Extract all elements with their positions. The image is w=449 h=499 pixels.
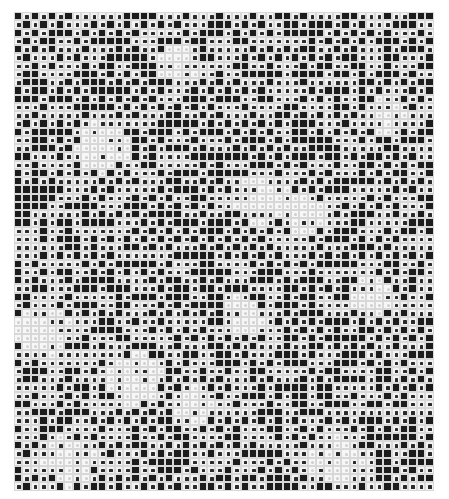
grid-cell: [316, 177, 324, 185]
grid-cell: [31, 243, 39, 251]
grid-cell: [123, 53, 131, 61]
grid-cell: [324, 449, 332, 457]
grid-cell: [14, 276, 22, 284]
grid-cell: [224, 284, 232, 292]
grid-cell: [257, 466, 265, 474]
grid-cell: [417, 177, 425, 185]
grid-cell: [81, 466, 89, 474]
grid-cell: [291, 449, 299, 457]
grid-cell: [39, 375, 47, 383]
grid-cell: [341, 474, 349, 482]
grid-cell: [148, 152, 156, 160]
grid-cell: [383, 433, 391, 441]
grid-cell: [249, 383, 257, 391]
grid-cell: [64, 70, 72, 78]
grid-cell: [123, 152, 131, 160]
grid-cell: [39, 177, 47, 185]
grid-cell: [22, 128, 30, 136]
grid-cell: [48, 12, 56, 20]
grid-cell: [408, 449, 416, 457]
grid-cell: [115, 119, 123, 127]
grid-cell: [358, 177, 366, 185]
grid-cell: [400, 466, 408, 474]
grid-cell: [257, 243, 265, 251]
grid-cell: [90, 12, 98, 20]
grid-cell: [148, 62, 156, 70]
grid-cell: [224, 383, 232, 391]
grid-cell: [224, 433, 232, 441]
grid-cell: [140, 466, 148, 474]
grid-cell: [39, 383, 47, 391]
grid-cell: [115, 359, 123, 367]
grid-cell: [425, 218, 433, 226]
grid-cell: [106, 161, 114, 169]
grid-cell: [115, 136, 123, 144]
grid-cell: [31, 103, 39, 111]
grid-cell: [64, 136, 72, 144]
grid-cell: [14, 235, 22, 243]
grid-cell: [207, 458, 215, 466]
grid-cell: [224, 29, 232, 37]
grid-cell: [207, 293, 215, 301]
grid-cell: [333, 169, 341, 177]
grid-cell: [14, 78, 22, 86]
grid-cell: [81, 326, 89, 334]
grid-cell: [98, 416, 106, 424]
grid-cell: [157, 482, 165, 490]
grid-cell: [207, 309, 215, 317]
grid-cell: [48, 400, 56, 408]
grid-cell: [324, 425, 332, 433]
grid-cell: [56, 416, 64, 424]
grid-cell: [350, 53, 358, 61]
grid-cell: [291, 227, 299, 235]
grid-cell: [131, 227, 139, 235]
grid-cell: [283, 359, 291, 367]
grid-cell: [333, 251, 341, 259]
grid-cell: [39, 12, 47, 20]
grid-cell: [299, 251, 307, 259]
grid-cell: [115, 103, 123, 111]
grid-cell: [291, 53, 299, 61]
grid-cell: [232, 243, 240, 251]
grid-cell: [400, 185, 408, 193]
grid-cell: [299, 29, 307, 37]
grid-cell: [299, 400, 307, 408]
grid-cell: [157, 449, 165, 457]
grid-cell: [341, 227, 349, 235]
grid-cell: [417, 433, 425, 441]
grid-cell: [115, 202, 123, 210]
grid-cell: [14, 95, 22, 103]
grid-cell: [157, 136, 165, 144]
grid-cell: [115, 53, 123, 61]
grid-cell: [106, 416, 114, 424]
grid-cell: [324, 62, 332, 70]
grid-cell: [392, 128, 400, 136]
grid-cell: [173, 119, 181, 127]
grid-cell: [148, 194, 156, 202]
grid-cell: [39, 458, 47, 466]
grid-cell: [215, 152, 223, 160]
grid-cell: [31, 185, 39, 193]
grid-cell: [140, 441, 148, 449]
grid-cell: [291, 309, 299, 317]
grid-cell: [140, 95, 148, 103]
grid-cell: [324, 334, 332, 342]
grid-cell: [425, 383, 433, 391]
grid-cell: [207, 29, 215, 37]
grid-cell: [232, 29, 240, 37]
grid-cell: [291, 416, 299, 424]
grid-cell: [400, 119, 408, 127]
grid-cell: [358, 227, 366, 235]
grid-cell: [232, 441, 240, 449]
grid-cell: [232, 144, 240, 152]
grid-cell: [408, 70, 416, 78]
grid-cell: [157, 119, 165, 127]
grid-cell: [232, 194, 240, 202]
grid-cell: [232, 53, 240, 61]
grid-cell: [350, 433, 358, 441]
grid-cell: [140, 177, 148, 185]
grid-cell: [22, 251, 30, 259]
grid-cell: [425, 194, 433, 202]
grid-cell: [400, 383, 408, 391]
grid-cell: [14, 45, 22, 53]
